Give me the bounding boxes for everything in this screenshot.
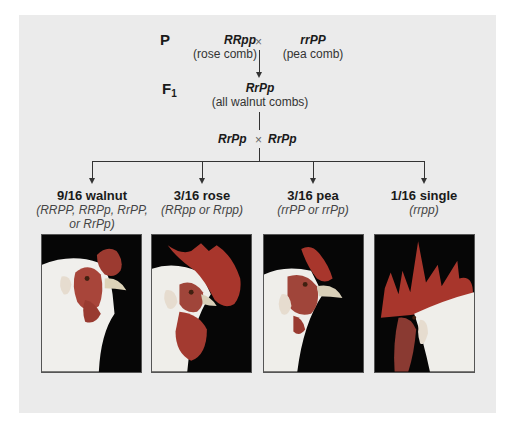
branch-line-rose bbox=[202, 161, 203, 179]
result-single-ratio: 1/16 single bbox=[364, 189, 484, 203]
f1-individual: RrPp (all walnut combs) bbox=[200, 81, 320, 109]
walnut-comb-chicken-photo bbox=[41, 234, 142, 373]
parent-right-phenotype: (pea comb) bbox=[273, 47, 353, 61]
single-comb-illustration bbox=[375, 235, 474, 372]
result-walnut-genotypes-2: or RrPp) bbox=[69, 217, 114, 231]
p-to-f1-line bbox=[259, 50, 260, 74]
result-pea-ratio: 3/16 pea bbox=[253, 189, 373, 203]
result-walnut: 9/16 walnut (RRPP, RRPp, RrPP, or RrPp) bbox=[32, 189, 152, 231]
pea-comb-illustration bbox=[264, 235, 363, 372]
result-pea-genotypes: (rrPP or rrPp) bbox=[277, 203, 349, 217]
p-to-f1-arrowhead-icon bbox=[256, 72, 262, 78]
f1-genotype: RrPp bbox=[200, 81, 320, 95]
parent-right: rrPP (pea comb) bbox=[273, 33, 353, 61]
parental-cross-symbol: × bbox=[255, 35, 262, 49]
arrowhead-rose-icon bbox=[199, 178, 205, 184]
f1-generation-label: F1 bbox=[162, 80, 177, 99]
result-single: 1/16 single (rrpp) bbox=[364, 189, 484, 217]
result-pea: 3/16 pea (rrPP or rrPp) bbox=[253, 189, 373, 217]
result-rose-ratio: 3/16 rose bbox=[142, 189, 262, 203]
result-single-genotypes: (rrpp) bbox=[409, 203, 438, 217]
result-walnut-genotypes-1: (RRPP, RRPp, RrPP, bbox=[36, 203, 148, 217]
rose-comb-chicken-photo bbox=[151, 234, 252, 373]
f1-phenotype: (all walnut combs) bbox=[200, 95, 320, 109]
walnut-comb-illustration bbox=[42, 235, 141, 372]
f1-label-subscript: 1 bbox=[171, 88, 177, 99]
f1-cross-right-genotype: RrPp bbox=[268, 132, 297, 146]
result-walnut-ratio: 9/16 walnut bbox=[32, 189, 152, 203]
single-comb-chicken-photo bbox=[374, 234, 475, 373]
branch-line-walnut bbox=[92, 161, 93, 179]
arrowhead-pea-icon bbox=[310, 178, 316, 184]
rose-comb-illustration bbox=[152, 235, 251, 372]
f1-cross-left-genotype: RrPp bbox=[218, 132, 247, 146]
parent-right-genotype: rrPP bbox=[273, 33, 353, 47]
result-rose: 3/16 rose (RRpp or Rrpp) bbox=[142, 189, 262, 217]
f1-cross-symbol: × bbox=[255, 133, 262, 147]
tree-trunk-line bbox=[259, 148, 260, 162]
tree-branch-line bbox=[92, 161, 425, 162]
parent-left-phenotype: (rose comb) bbox=[185, 47, 265, 61]
arrowhead-walnut-icon bbox=[89, 178, 95, 184]
parental-generation-label: P bbox=[160, 31, 170, 48]
branch-line-single bbox=[424, 161, 425, 179]
f1-to-cross-line bbox=[259, 112, 260, 130]
result-rose-genotypes: (RRpp or Rrpp) bbox=[161, 203, 243, 217]
branch-line-pea bbox=[313, 161, 314, 179]
pea-comb-chicken-photo bbox=[263, 234, 364, 373]
arrowhead-single-icon bbox=[421, 178, 427, 184]
f1-label-text: F bbox=[162, 80, 171, 97]
